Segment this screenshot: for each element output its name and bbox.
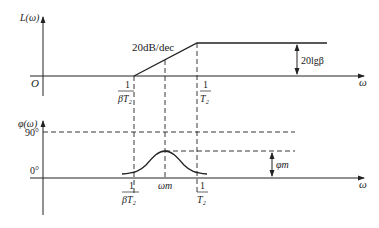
magnitude-plot: L(ω) O ω 20dB/dec 20lgβ 1 βT₂ 1 T₂ [19, 12, 367, 195]
magnitude-x-label: ω [359, 76, 367, 88]
magnitude-y-label: L(ω) [19, 12, 40, 24]
break-high-den: T₂ [200, 93, 210, 104]
phase-max-label: φm [276, 159, 289, 170]
bode-diagram: L(ω) O ω 20dB/dec 20lgβ 1 βT₂ 1 T₂ φ(ω) … [0, 0, 379, 228]
break-low-num: 1 [129, 180, 134, 191]
phase-curve [122, 151, 207, 174]
tick-90-label: 90° [25, 127, 39, 138]
break-high-num: 1 [200, 180, 205, 191]
phase-x-label: ω [359, 178, 367, 190]
break-low-den: βT₂ [121, 194, 137, 205]
omega-m-label: ωm [158, 180, 172, 191]
origin-label: O [31, 77, 39, 89]
break-low-den: βT₂ [117, 93, 133, 104]
gain-label: 20lgβ [301, 55, 324, 66]
phase-plot: φ(ω) 90° 0° ω ωm φm 1 βT₂ 1 T₂ [18, 118, 367, 215]
break-high-num: 1 [203, 79, 208, 90]
tick-0-label: 0° [30, 165, 39, 176]
slope-label: 20dB/dec [132, 41, 174, 53]
break-high-den: T₂ [197, 194, 207, 205]
break-low-num: 1 [125, 79, 130, 90]
